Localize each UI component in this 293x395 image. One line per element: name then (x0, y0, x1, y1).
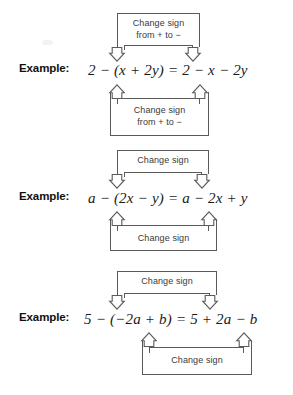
top-bracket-label-line-2-1: Change sign (117, 155, 209, 167)
top-bracket-connector-2 (124, 172, 202, 173)
top-bracket-label-line-1-1: Change sign (117, 18, 200, 30)
arrow-down-icon (109, 174, 125, 189)
arrow-down-icon (109, 47, 125, 62)
bottom-bracket-3: Change sign (0, 332, 293, 390)
worksheet-page: Change sign from + to − Example: 2 − (x … (0, 0, 293, 395)
equation-row-2: Example: a − (2x − y) = a − 2x + y (0, 190, 293, 212)
equation-row-1: Example: 2 − (x + 2y) = 2 − x − 2y (0, 62, 293, 84)
example-block-3: Change sign Example: 5 − (−2a + b) = 5 +… (0, 265, 293, 390)
top-bracket-label-1: Change sign from + to − (117, 18, 200, 41)
equation-2: a − (2x − y) = a − 2x + y (88, 190, 248, 207)
top-bracket-label-line-1-2: from + to − (117, 30, 200, 42)
bottom-bracket-label-2: Change sign (110, 233, 217, 245)
bottom-bracket-label-line-1-1: Change sign (110, 105, 209, 117)
arrow-down-icon (194, 174, 210, 189)
equation-3: 5 − (−2a + b) = 5 + 2a − b (84, 311, 257, 328)
example-label-2: Example: (19, 190, 69, 202)
bottom-bracket-label-line-3-1: Change sign (142, 355, 252, 367)
arrow-down-icon (109, 295, 125, 310)
top-bracket-label-line-3-1: Change sign (117, 276, 217, 288)
example-label-1: Example: (19, 62, 69, 74)
equation-1: 2 − (x + 2y) = 2 − x − 2y (88, 62, 248, 79)
bottom-bracket-label-line-2-1: Change sign (110, 233, 217, 245)
top-bracket-1: Change sign from + to − (0, 0, 293, 62)
bottom-bracket-label-1: Change sign from + to − (110, 105, 209, 128)
arrow-down-icon (202, 295, 218, 310)
arrow-down-icon (185, 47, 201, 62)
bottom-bracket-label-line-1-2: from + to − (110, 117, 209, 129)
bottom-bracket-2: Change sign (0, 211, 293, 265)
example-label-3: Example: (19, 311, 69, 323)
top-bracket-connector-3 (124, 293, 210, 294)
top-bracket-label-3: Change sign (117, 276, 217, 288)
example-block-2: Change sign Example: a − (2x − y) = a − … (0, 145, 293, 265)
top-bracket-label-2: Change sign (117, 155, 209, 167)
bottom-bracket-label-3: Change sign (142, 355, 252, 367)
top-bracket-connector-1 (124, 45, 193, 46)
equation-row-3: Example: 5 − (−2a + b) = 5 + 2a − b (0, 311, 293, 333)
bottom-bracket-1: Change sign from + to − (0, 84, 293, 140)
example-block-1: Change sign from + to − Example: 2 − (x … (0, 0, 293, 140)
